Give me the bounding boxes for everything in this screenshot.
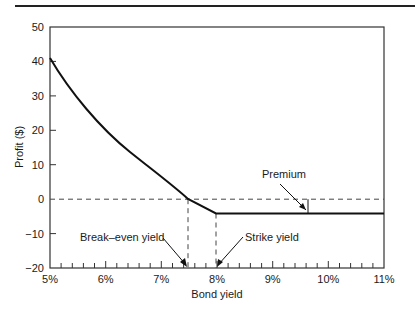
chart: 50 40 30 20 10 0 −10 −20 5% 6% 7% 8% 9% …: [0, 0, 415, 311]
y-tick-label: 20: [32, 124, 44, 136]
break-even-label: Break–even yield: [80, 231, 164, 243]
x-tick-label: 5%: [42, 273, 58, 285]
x-axis-title: Bond yield: [191, 288, 242, 300]
y-tick-label: 50: [32, 21, 44, 33]
y-tick-labels: 50 40 30 20 10 0 −10 −20: [25, 21, 44, 274]
y-tick-label: 0: [38, 193, 44, 205]
x-tick-label: 6%: [98, 273, 114, 285]
y-tick-label: 40: [32, 55, 44, 67]
y-tick-label: 10: [32, 159, 44, 171]
x-tick-label: 8%: [209, 273, 225, 285]
x-tick-label: 9%: [265, 273, 281, 285]
y-axis-title: Profit ($): [13, 126, 25, 168]
y-axis: [50, 61, 56, 233]
annotations: Premium Break–even yield Strike yield: [80, 168, 306, 267]
y-tick-label: −10: [25, 228, 44, 240]
strike-label: Strike yield: [245, 231, 299, 243]
x-tick-labels: 5% 6% 7% 8% 9% 10% 11%: [42, 273, 395, 285]
x-tick-label: 11%: [373, 273, 394, 285]
premium-label: Premium: [262, 168, 306, 180]
x-tick-label: 10%: [317, 273, 339, 285]
x-axis: [61, 261, 373, 268]
y-tick-label: 30: [32, 90, 44, 102]
x-tick-label: 7%: [153, 273, 169, 285]
profit-curve: [50, 58, 384, 214]
